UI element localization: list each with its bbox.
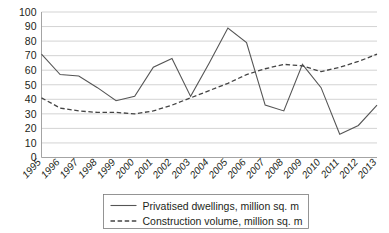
y-axis-tick-label: 90 bbox=[25, 20, 37, 32]
line-chart: 0102030405060708090100 19951996199719981… bbox=[0, 0, 389, 233]
y-axis-tick-label: 100 bbox=[19, 6, 37, 18]
y-axis-tick-label: 60 bbox=[25, 64, 37, 76]
y-axis-tick-label: 20 bbox=[25, 122, 37, 134]
chart-legend: Privatised dwellings, million sq. mConst… bbox=[104, 195, 309, 229]
y-axis-tick-label: 30 bbox=[25, 108, 37, 120]
legend-label-construction-volume: Construction volume, million sq. m bbox=[143, 215, 303, 227]
y-axis-tick-label: 70 bbox=[25, 49, 37, 61]
y-axis-tick-label: 40 bbox=[25, 93, 37, 105]
chart-canvas: 0102030405060708090100 19951996199719981… bbox=[0, 0, 389, 233]
y-axis-tick-label: 80 bbox=[25, 35, 37, 47]
legend-label-privatised-dwellings: Privatised dwellings, million sq. m bbox=[143, 200, 300, 212]
y-axis-tick-label: 50 bbox=[25, 79, 37, 91]
y-axis-tick-label: 10 bbox=[25, 137, 37, 149]
